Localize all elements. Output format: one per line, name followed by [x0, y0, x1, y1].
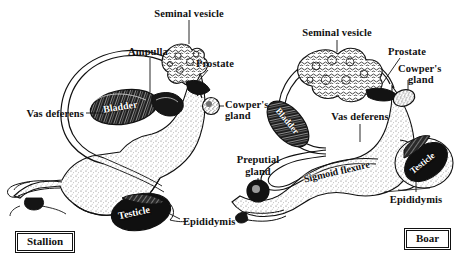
boar-species-box: Boar	[404, 228, 451, 250]
stallion-label-ampulla: Ampulla	[128, 46, 168, 57]
boar-label-preputial-gland-line2: gland	[245, 166, 271, 177]
boar-label-cowpers-gland: Cowper's	[398, 63, 441, 74]
stallion-species-label: Stallion	[17, 233, 73, 251]
stallion-label-cowpers-gland-line2: gland	[225, 110, 251, 121]
boar-label-epididymis: Epididymis	[390, 194, 442, 205]
stallion-label-prostate: Prostate	[196, 58, 234, 69]
anatomy-figure: Seminal vesicle Ampulla Prostate Cowper'…	[0, 0, 459, 261]
boar-label-prostate: Prostate	[388, 46, 426, 57]
stallion-species-box: Stallion	[15, 231, 75, 253]
stallion-panel	[7, 20, 224, 236]
boar-label-preputial-gland: Preputial	[237, 154, 280, 165]
stallion-label-cowpers-gland: Cowper's	[225, 99, 268, 110]
boar-label-vas-deferens: Vas deferens	[331, 111, 389, 122]
boar-label-cowpers-gland-line2: gland	[408, 74, 434, 85]
stallion-label-vas-deferens: Vas deferens	[27, 108, 85, 119]
stallion-label-epididymis: Epididymis	[183, 216, 235, 227]
boar-preputial-gland-shape	[247, 180, 269, 202]
stallion-label-seminal-vesicle: Seminal vesicle	[154, 8, 223, 19]
boar-species-label: Boar	[406, 230, 449, 248]
boar-label-seminal-vesicle: Seminal vesicle	[302, 27, 371, 38]
